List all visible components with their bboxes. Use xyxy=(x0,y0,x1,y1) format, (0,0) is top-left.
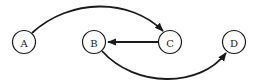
graph-canvas: A B C D xyxy=(0,0,254,84)
node-b: B xyxy=(83,31,106,54)
node-b-label: B xyxy=(90,38,97,49)
node-a-label: A xyxy=(19,38,28,49)
edge-a-to-c xyxy=(32,6,163,33)
node-d: D xyxy=(223,31,246,54)
node-d-label: D xyxy=(230,38,238,49)
node-c: C xyxy=(159,31,182,54)
edge-b-to-d xyxy=(102,51,226,79)
node-c-label: C xyxy=(166,38,174,49)
node-a: A xyxy=(13,31,36,54)
